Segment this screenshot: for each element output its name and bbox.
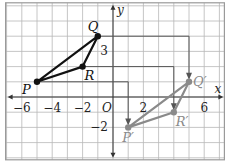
y-axis-label: y bbox=[116, 3, 124, 17]
point-label: Q bbox=[88, 19, 99, 34]
x-tick-label: −2 bbox=[74, 101, 92, 115]
point-label: Q′ bbox=[193, 74, 207, 89]
vertex-dot bbox=[186, 79, 192, 85]
x-tick-label: −4 bbox=[43, 101, 61, 115]
point-label: R bbox=[84, 68, 95, 83]
origin-label: O bbox=[102, 101, 112, 115]
point-label: R′ bbox=[175, 114, 189, 129]
y-tick-label: −2 bbox=[90, 120, 108, 134]
x-axis-left-arrow-icon bbox=[8, 95, 13, 100]
x-axis-label: x bbox=[214, 82, 221, 96]
coordinate-diagram: xyO −6−4−2263−2 PQRP′Q′R′ bbox=[0, 0, 228, 165]
x-tick-label: −6 bbox=[13, 101, 31, 115]
y-tick-label: 3 bbox=[100, 44, 108, 58]
x-tick-label: 6 bbox=[200, 101, 208, 115]
y-axis-down-arrow-icon bbox=[111, 153, 116, 158]
point-label: P bbox=[21, 82, 31, 97]
vertex-dot bbox=[34, 79, 40, 85]
point-label: P′ bbox=[121, 130, 134, 145]
